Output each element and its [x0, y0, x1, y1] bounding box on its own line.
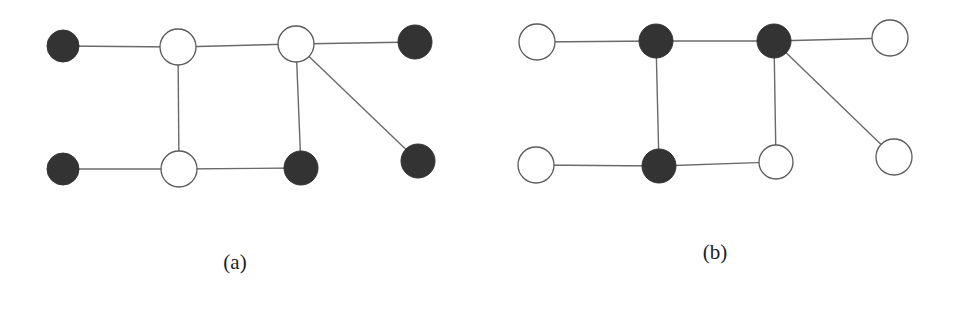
edge-b2-b6: [656, 41, 659, 166]
filled-node-b6: [642, 149, 676, 183]
panel-a-edges: [63, 42, 418, 169]
filled-node-b2: [639, 24, 673, 58]
filled-node-a5: [47, 153, 79, 185]
edge-b3-b8: [774, 41, 894, 157]
empty-node-a6: [161, 151, 197, 187]
panel-a-caption: (a): [223, 250, 246, 275]
edge-a3-a8: [296, 44, 418, 161]
panel-b-caption: (b): [703, 240, 728, 265]
panel-a-graph: [47, 25, 435, 187]
filled-node-b3: [757, 24, 791, 58]
filled-node-a1: [47, 30, 79, 62]
edge-b3-b7: [774, 41, 776, 162]
panel-a-nodes: [47, 25, 435, 187]
filled-node-a4: [398, 25, 432, 59]
empty-node-a3: [278, 26, 314, 62]
filled-node-a7: [284, 151, 318, 185]
graph-diagram: [0, 0, 960, 310]
empty-node-b7: [759, 145, 793, 179]
panel-b-edges: [536, 38, 894, 166]
empty-node-b5: [518, 147, 554, 183]
empty-node-a2: [160, 29, 196, 65]
empty-node-b8: [876, 139, 912, 175]
filled-node-a8: [401, 144, 435, 178]
panel-b-graph: [518, 20, 912, 183]
panel-b-nodes: [518, 20, 912, 183]
empty-node-b1: [519, 24, 555, 60]
empty-node-b4: [872, 20, 908, 56]
